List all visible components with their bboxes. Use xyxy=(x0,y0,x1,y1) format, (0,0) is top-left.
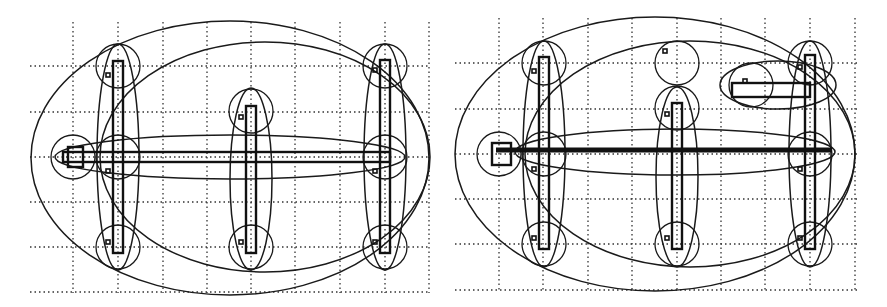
diagram-panel-left xyxy=(0,0,440,307)
left-diagram-svg xyxy=(0,0,440,307)
small-squares xyxy=(106,68,377,244)
bars xyxy=(492,55,832,249)
small-squares xyxy=(532,49,802,240)
diagram-panel-right xyxy=(440,0,887,307)
right-diagram-svg xyxy=(440,0,887,307)
